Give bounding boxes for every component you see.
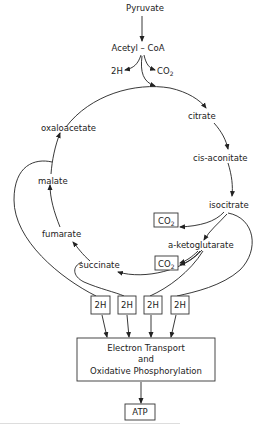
- isocitrate-label: isocitrate: [209, 200, 249, 210]
- fumarate-label: fumarate: [42, 229, 81, 239]
- arc-citrate-to-cisaconitate: [214, 123, 228, 149]
- entry-2h-label: 2H: [111, 66, 123, 76]
- acetyl-entry-arrow: [141, 56, 155, 86]
- page-edge-divider: [0, 423, 180, 424]
- h2-arrow-1: [102, 315, 107, 337]
- malate-label: malate: [38, 176, 68, 186]
- h2-box-2-label: 2H: [121, 300, 133, 310]
- entry-co2-label: CO2: [157, 66, 174, 77]
- oxaloacetate-label: oxaloacetate: [41, 123, 96, 133]
- entry-co2-arrow: [144, 55, 155, 70]
- pyruvate-label: Pyruvate: [126, 3, 164, 13]
- isocitrate-co2-arrow: [180, 212, 224, 227]
- h2-box-1-label: 2H: [95, 300, 107, 310]
- acetyl-coa-label: Acetyl – CoA: [112, 43, 165, 53]
- h2-arrow-2: [127, 315, 129, 337]
- atp-label: ATP: [132, 407, 147, 417]
- h2-arrow-4: [171, 315, 176, 337]
- arc-isocitrate-to-aketoglutarate: [204, 214, 227, 240]
- citric-acid-cycle-diagram: Pyruvate Acetyl – CoA 2H CO2 CO2 CO2 cit…: [0, 0, 266, 425]
- entry-2h-arrow: [125, 55, 141, 70]
- electron-transport-line2: and: [138, 354, 154, 364]
- h2-box-3-label: 2H: [147, 300, 159, 310]
- a-ketoglutarate-label: a-ketoglutarate: [168, 240, 234, 250]
- electron-transport-line3: Oxidative Phosphorylation: [90, 366, 202, 376]
- cis-aconitate-label: cis-aconitate: [193, 153, 247, 163]
- h2-box-4-label: 2H: [174, 300, 186, 310]
- citrate-label: citrate: [188, 111, 216, 121]
- arc-oxaloacetate-to-citrate: [66, 87, 206, 127]
- succinate-label: succinate: [79, 260, 120, 270]
- arc-fumarate-to-malate: [50, 185, 60, 227]
- arc-succinate-to-fumarate: [73, 242, 90, 261]
- arc-malate-to-oxaloacetate: [51, 133, 60, 174]
- isocitrate-2h-line: [177, 213, 252, 296]
- arc-cisaconitate-to-isocitrate: [228, 163, 232, 196]
- electron-transport-line1: Electron Transport: [107, 343, 185, 353]
